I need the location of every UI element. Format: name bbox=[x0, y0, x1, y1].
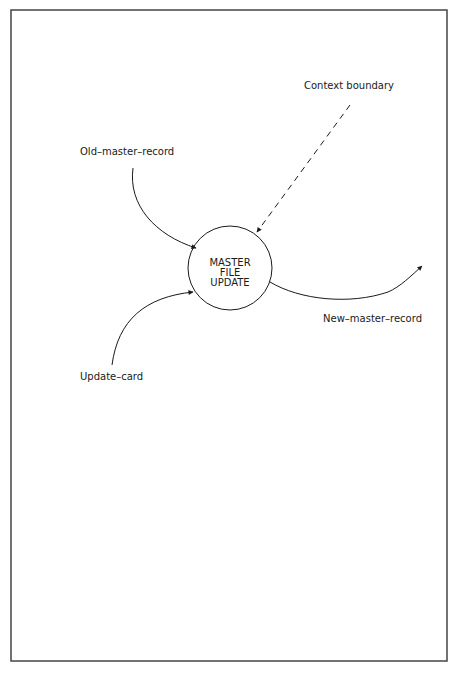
label-new-master-record: New–master–record bbox=[323, 313, 422, 324]
flow-new-master-record-arrow bbox=[270, 266, 422, 299]
label-context-boundary: Context boundary bbox=[304, 80, 394, 91]
page-frame bbox=[11, 10, 447, 661]
diagram-canvas: MASTER FILE UPDATE Old–master–record Upd… bbox=[0, 0, 456, 686]
process-master-file-update: MASTER FILE UPDATE bbox=[188, 226, 272, 310]
label-update-card: Update–card bbox=[80, 371, 143, 382]
flow-update-card-arrow bbox=[112, 292, 193, 365]
context-boundary-dashed-arrow bbox=[257, 105, 350, 232]
label-old-master-record: Old–master–record bbox=[80, 146, 174, 157]
process-label-line-3: UPDATE bbox=[210, 277, 249, 288]
flow-old-master-record-arrow bbox=[132, 168, 196, 248]
